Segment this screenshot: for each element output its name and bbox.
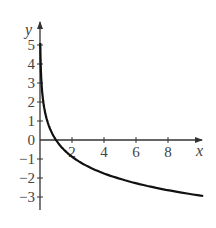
x-tick-label: 8 [164, 144, 172, 160]
y-tick-label: −1 [19, 151, 35, 167]
y-tick-label: 3 [28, 75, 36, 91]
y-tick-label: −3 [19, 189, 35, 205]
x-tick-label: 4 [100, 144, 108, 160]
y-tick-label: −2 [19, 170, 35, 186]
y-tick-label: 0 [28, 132, 36, 148]
y-tick-label: 5 [28, 37, 36, 53]
y-tick-label: 1 [28, 113, 36, 129]
curve-line [40, 43, 203, 196]
chart: 2468 543210−1−2−3 x y [0, 0, 216, 228]
x-tick-label: 6 [132, 144, 140, 160]
y-axis-label: y [23, 21, 33, 39]
y-tick-label: 2 [28, 94, 36, 110]
x-axis-label: x [195, 142, 203, 159]
y-tick-label: 4 [28, 56, 36, 72]
